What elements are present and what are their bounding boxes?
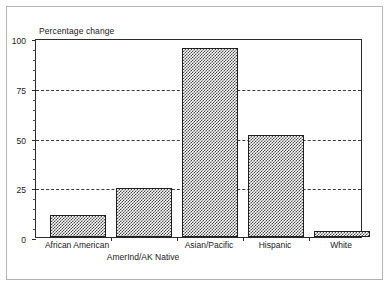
y-tick-minor <box>33 110 36 111</box>
y-tick-minor <box>33 80 36 81</box>
y-tick-label-0: 0 <box>21 236 26 245</box>
y-tick-minor <box>33 219 36 220</box>
bar-chart: Percentage change 100 75 50 25 0 <box>7 7 384 281</box>
y-tick-100: 100 <box>32 40 36 41</box>
bar-african-american <box>50 215 106 237</box>
y-tick-minor <box>33 199 36 200</box>
figure-frame: Percentage change 100 75 50 25 0 <box>6 6 383 280</box>
y-tick-minor <box>33 229 36 230</box>
y-tick-minor <box>33 130 36 131</box>
y-tick-0: 0 <box>32 239 36 240</box>
y-tick-minor <box>33 50 36 51</box>
x-tick <box>243 237 244 241</box>
bar-white <box>314 231 370 237</box>
y-tick-minor <box>33 159 36 160</box>
y-tick-50: 50 <box>32 140 36 141</box>
bar-amerind-ak-native <box>116 188 172 237</box>
x-tick <box>309 237 310 241</box>
y-tick-minor <box>33 179 36 180</box>
x-tick-label-amerind-ak-native: AmerInd/AK Native <box>107 252 179 262</box>
y-tick-minor <box>33 169 36 170</box>
y-tick-label-100: 100 <box>12 37 26 46</box>
y-tick-label-75: 75 <box>17 86 26 95</box>
x-tick-label-hispanic: Hispanic <box>259 240 292 250</box>
plot-area: 100 75 50 25 0 <box>35 39 362 238</box>
y-tick-label-50: 50 <box>17 136 26 145</box>
y-tick-label-25: 25 <box>17 186 26 195</box>
y-tick-minor <box>33 60 36 61</box>
y-tick-minor <box>33 209 36 210</box>
x-tick-label-asian-pacific: Asian/Pacific <box>185 240 234 250</box>
y-tick-minor <box>33 149 36 150</box>
x-tick <box>177 237 178 241</box>
y-tick-minor <box>33 100 36 101</box>
x-tick-label-white: White <box>330 240 352 250</box>
x-tick <box>111 237 112 241</box>
bar-asian-pacific <box>182 48 238 237</box>
y-tick-25: 25 <box>32 189 36 190</box>
y-tick-minor <box>33 120 36 121</box>
bar-hispanic <box>248 135 304 237</box>
y-tick-minor <box>33 70 36 71</box>
y-axis-title: Percentage change <box>39 26 114 36</box>
y-tick-75: 75 <box>32 90 36 91</box>
x-tick-label-african-american: African American <box>45 240 109 250</box>
